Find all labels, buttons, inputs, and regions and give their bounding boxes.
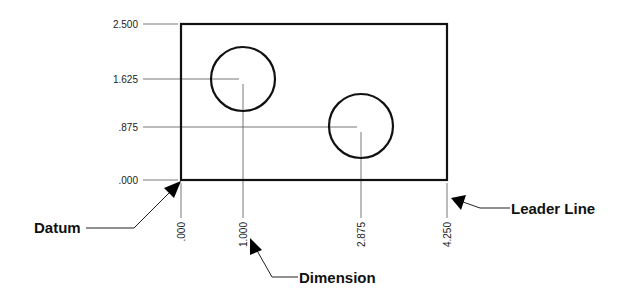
y-label-0000: .000 (119, 175, 139, 186)
datum-callout: Datum (34, 181, 181, 236)
y-label-2500: 2.500 (113, 19, 138, 30)
x-label-2875: 2.875 (356, 222, 367, 247)
y-label-1625: 1.625 (113, 74, 138, 85)
leader-line-callout: Leader Line (451, 195, 595, 217)
x-label-0000: .000 (176, 222, 187, 242)
x-label-1000: 1.000 (238, 222, 249, 247)
dimension-leader (255, 247, 298, 277)
y-label-0875: .875 (119, 122, 139, 133)
datum-label: Datum (34, 219, 81, 236)
x-label-4250: 4.250 (442, 222, 453, 247)
leader-line-label: Leader Line (511, 200, 595, 217)
dimension-arrowhead-icon (250, 238, 262, 255)
datum-leader (86, 190, 172, 228)
x-extension-lines (181, 84, 447, 218)
y-dimension-labels: 2.500 1.625 .875 .000 (113, 19, 138, 186)
dimension-label: Dimension (299, 269, 376, 286)
leader-line-leader (463, 202, 510, 208)
dimensioned-part-drawing: 2.500 1.625 .875 .000 .000 1.000 2.875 4… (0, 0, 634, 300)
x-dimension-labels: .000 1.000 2.875 4.250 (176, 222, 453, 247)
